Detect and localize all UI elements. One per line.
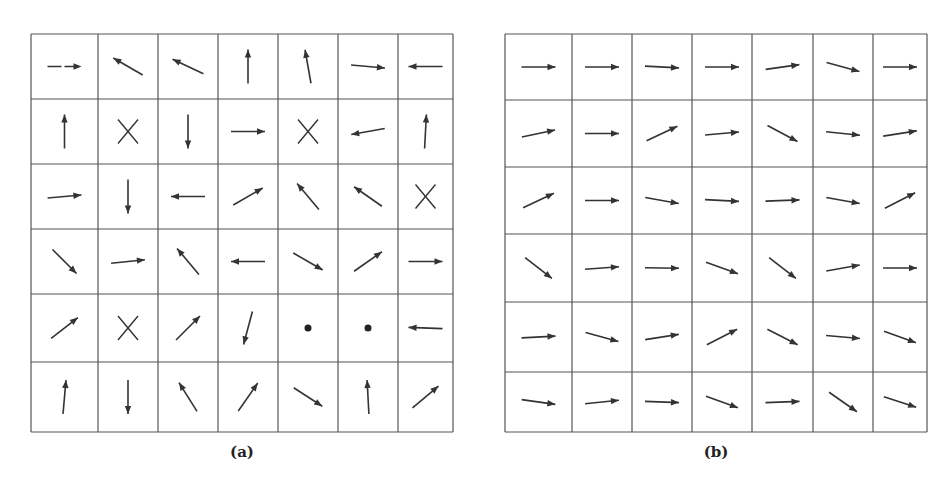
cell-arrow	[766, 63, 800, 70]
cell-arrow	[883, 129, 917, 136]
cell-arrow	[766, 398, 800, 404]
arrowhead-icon	[611, 64, 619, 70]
cell-arrow	[645, 332, 679, 339]
vector-grid-b	[0, 0, 948, 440]
arrowhead-icon	[671, 265, 679, 271]
arrowhead-icon	[791, 197, 799, 203]
arrowhead-icon	[611, 264, 619, 270]
arrowhead-icon	[547, 333, 555, 339]
arrowhead-icon	[791, 63, 799, 69]
arrowhead-icon	[731, 64, 739, 70]
caption-b: (b)	[686, 443, 746, 461]
cell-arrow	[707, 329, 737, 344]
arrowhead-icon	[789, 135, 798, 142]
cell-arrow	[767, 329, 797, 344]
cell-arrow	[826, 263, 859, 271]
cell-arrow	[645, 399, 679, 405]
cell-arrow	[647, 126, 678, 140]
cell-arrow	[585, 197, 619, 203]
cell-arrow	[826, 131, 860, 137]
arrowhead-icon	[729, 268, 738, 274]
arrowhead-icon	[669, 126, 678, 132]
arrowhead-icon	[729, 329, 738, 335]
arrowhead-icon	[791, 398, 799, 404]
cell-arrow	[523, 193, 554, 207]
arrowhead-icon	[610, 336, 619, 342]
cell-arrow	[826, 335, 860, 341]
cell-arrow	[705, 130, 739, 136]
arrowhead-icon	[671, 399, 679, 405]
cell-arrow	[706, 396, 738, 408]
cell-arrow	[585, 398, 619, 404]
arrowhead-icon	[909, 265, 917, 271]
cell-arrow	[525, 258, 552, 279]
arrowhead-icon	[670, 199, 678, 205]
arrowhead-icon	[731, 198, 739, 204]
arrowhead-icon	[851, 66, 860, 72]
cell-arrow	[705, 64, 739, 70]
arrowhead-icon	[611, 197, 619, 203]
arrowhead-icon	[545, 193, 554, 199]
cell-arrow	[827, 63, 860, 73]
cell-arrow	[884, 331, 916, 343]
cell-arrow	[522, 333, 556, 339]
cell-arrow	[522, 400, 556, 407]
cell-arrow	[522, 128, 555, 137]
cell-arrow	[883, 265, 917, 271]
cell-arrow	[645, 198, 678, 206]
cell-arrow	[522, 64, 556, 70]
arrowhead-icon	[729, 402, 738, 408]
arrowhead-icon	[611, 130, 619, 136]
arrowhead-icon	[907, 337, 916, 343]
cell-arrow	[767, 126, 797, 142]
arrowhead-icon	[908, 129, 916, 135]
cell-arrow	[883, 64, 917, 70]
arrowhead-icon	[789, 338, 798, 344]
cell-arrow	[585, 64, 619, 70]
cell-arrow	[585, 264, 619, 270]
arrowhead-icon	[670, 332, 678, 338]
arrowhead-icon	[548, 64, 556, 70]
arrowhead-icon	[908, 402, 917, 408]
cell-arrow	[884, 397, 916, 408]
arrowhead-icon	[849, 405, 857, 412]
cell-arrow	[769, 258, 796, 279]
cell-arrow	[885, 193, 915, 208]
cell-arrow	[706, 262, 738, 274]
arrowhead-icon	[671, 64, 679, 70]
arrowhead-icon	[547, 400, 555, 406]
cell-arrow	[586, 333, 619, 343]
arrowhead-icon	[851, 263, 859, 269]
arrowhead-icon	[851, 199, 859, 205]
arrowhead-icon	[909, 64, 917, 70]
cell-arrow	[585, 130, 619, 136]
cell-arrow	[829, 392, 857, 412]
cell-arrow	[705, 198, 739, 204]
panel-b-aligned-field: (b)	[0, 0, 948, 490]
cell-arrow	[645, 265, 679, 271]
cell-arrow	[645, 64, 679, 70]
arrowhead-icon	[907, 193, 916, 199]
cell-arrow	[766, 197, 800, 203]
cell-arrow	[826, 198, 859, 206]
